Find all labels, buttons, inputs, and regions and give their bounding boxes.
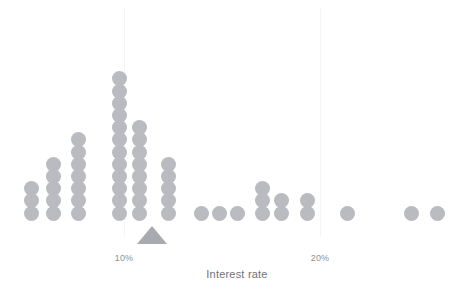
dot — [300, 193, 315, 208]
dot — [274, 193, 289, 208]
gridline-20pct — [320, 8, 321, 236]
dot — [404, 206, 419, 221]
dot — [161, 157, 176, 172]
dot — [230, 206, 245, 221]
dot — [112, 71, 127, 86]
dot — [212, 206, 227, 221]
dot — [24, 181, 39, 196]
dot — [46, 157, 61, 172]
dot-plot-chart: 10%20% Interest rate — [0, 0, 474, 297]
dot — [430, 206, 445, 221]
dot — [132, 120, 147, 135]
x-axis-title: Interest rate — [0, 268, 474, 280]
x-tick-label-1: 20% — [311, 253, 330, 263]
dot — [340, 206, 355, 221]
dot — [71, 132, 86, 147]
dot — [194, 206, 209, 221]
x-tick-label-0: 10% — [115, 253, 134, 263]
dot — [255, 181, 270, 196]
median-marker-icon — [137, 226, 167, 244]
plot-area — [0, 0, 474, 240]
